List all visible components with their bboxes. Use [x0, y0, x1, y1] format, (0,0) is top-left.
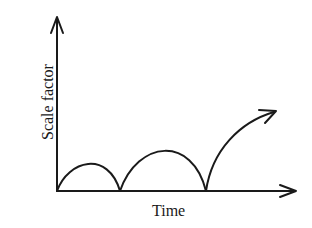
x-axis-label: Time [152, 202, 185, 220]
cyclic-universe-diagram: Scale factor Time [0, 0, 312, 228]
y-axis-label: Scale factor [39, 64, 57, 140]
expansion-curve [206, 112, 274, 191]
cycle-1-curve [57, 164, 120, 191]
cycle-2-curve [120, 151, 206, 191]
